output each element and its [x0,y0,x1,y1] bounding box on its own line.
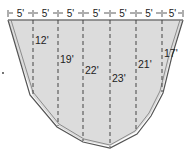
depth-label-6: 17' [164,47,178,59]
section-width-labels: 5' 5' 5' 5' 5' 5' 5' [17,8,177,19]
width-label-4: 5' [93,8,101,19]
width-label-7: 5' [169,8,177,19]
stray-dot [2,72,4,74]
depth-label-5: 21' [138,58,152,70]
width-label-3: 5' [67,8,75,19]
width-label-5: 5' [119,8,127,19]
depth-label-2: 19' [60,53,74,65]
depth-label-4: 23' [112,72,126,84]
depth-label-1: 12' [35,34,49,46]
depth-label-3: 22' [85,64,99,76]
width-label-1: 5' [17,8,25,19]
width-label-2: 5' [42,8,50,19]
pond-cross-section-diagram: 5' 5' 5' 5' 5' 5' 5' 12' 19' 22' 23' 21'… [0,0,187,149]
width-label-6: 5' [145,8,153,19]
